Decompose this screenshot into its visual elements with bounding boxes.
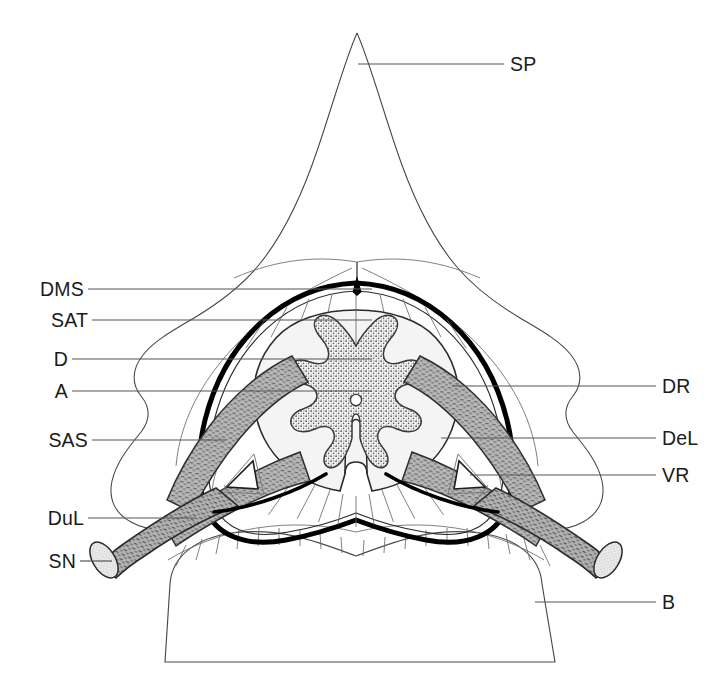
label-dr: DR <box>662 375 691 397</box>
vertebral-body-group <box>165 532 555 662</box>
label-sas: SAS <box>48 429 88 451</box>
dorsal-median-septum <box>234 259 480 296</box>
label-dul: DuL <box>48 507 84 529</box>
label-sn: SN <box>49 550 77 572</box>
denticulate-ligament-left <box>227 461 258 489</box>
label-del: DeL <box>662 427 698 449</box>
dms-wedge <box>353 276 362 296</box>
label-sp: SP <box>510 53 536 75</box>
label-d: D <box>54 348 68 370</box>
label-text-left: DMS SAT D A SAS DuL SN <box>40 278 88 572</box>
label-sat: SAT <box>51 309 88 331</box>
vertebral-body-outline <box>165 532 555 662</box>
central-canal <box>350 394 361 405</box>
label-a: A <box>55 380 68 402</box>
label-b: B <box>662 591 675 613</box>
label-vr: VR <box>662 464 690 486</box>
spinal-cord-cross-section-diagram: DMS SAT D A SAS DuL SN SP DR DeL VR B <box>0 0 712 685</box>
label-dms: DMS <box>40 278 84 300</box>
figure-canvas: DMS SAT D A SAS DuL SN SP DR DeL VR B <box>0 0 712 685</box>
